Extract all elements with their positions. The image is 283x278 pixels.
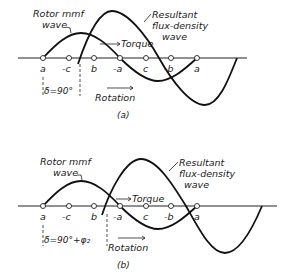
panel-a-torque-label: Torque: [121, 38, 153, 49]
svg-text:a: a: [40, 63, 46, 74]
svg-text:-c: -c: [62, 211, 71, 222]
svg-text:a: a: [194, 63, 200, 74]
svg-text:-b: -b: [164, 211, 173, 222]
panel-b-delta-label: δ=90°+φ₂: [44, 235, 90, 245]
svg-text:a: a: [40, 211, 46, 222]
panel-b-flux-label: Resultant: [179, 157, 226, 168]
panel-b-rotor-label: Rotor mmf: [40, 156, 92, 167]
panel-a-flux-label: Resultant: [152, 9, 199, 20]
panel-b-flux-label-2: flux-density: [179, 168, 235, 179]
svg-text:a: a: [194, 211, 200, 222]
panel-b-torque-label: Torque: [132, 193, 164, 204]
panel-a-rotation-arrow: [107, 86, 133, 90]
panel-a-delta-label: δ=90°: [44, 86, 73, 96]
panel-a-flux-leader: [144, 14, 151, 22]
panel-b-rotation-arrow: [118, 236, 145, 240]
svg-text:-c: -c: [62, 63, 71, 74]
panel-a-rotor-label: Rotor mmf: [33, 8, 85, 19]
svg-text:b: b: [91, 63, 97, 74]
svg-text:c: c: [143, 63, 149, 74]
panel-a-flux-label-2: flux-density: [152, 20, 208, 31]
svg-text:-a: -a: [113, 211, 122, 222]
panel-b-flux-label-3: wave: [184, 179, 209, 190]
panel-b-caption: (b): [117, 260, 130, 270]
panel-a: a -c b -a c -b a Rotor mmf wave Resultan…: [18, 8, 247, 120]
panel-b: a -c b -a c -b a Rotor mmf wave Resultan…: [18, 156, 277, 270]
panel-b-pole-labels: a -c b -a c -b a: [40, 211, 200, 222]
panel-a-flux-label-3: wave: [162, 31, 187, 42]
svg-text:c: c: [143, 211, 149, 222]
figure-canvas: a -c b -a c -b a Rotor mmf wave Resultan…: [0, 0, 283, 278]
panel-a-rotation-label: Rotation: [95, 92, 135, 103]
panel-b-flux-leader: [169, 162, 178, 171]
panel-b-rotor-label-2: wave: [53, 167, 78, 178]
svg-text:b: b: [91, 211, 97, 222]
panel-b-rotation-label: Rotation: [108, 242, 148, 253]
svg-text:-a: -a: [113, 63, 122, 74]
panel-a-caption: (a): [117, 110, 130, 120]
panel-b-torque-arrow: [116, 197, 131, 201]
panel-a-pole-labels: a -c b -a c -b a: [40, 63, 200, 74]
panel-a-rotor-label-2: wave: [42, 19, 67, 30]
svg-text:-b: -b: [164, 63, 173, 74]
